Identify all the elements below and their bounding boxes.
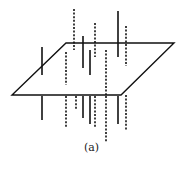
dashed-lines-group [66, 9, 126, 142]
parallelogram-plane [12, 43, 174, 95]
figure-caption: (a) [0, 141, 183, 154]
